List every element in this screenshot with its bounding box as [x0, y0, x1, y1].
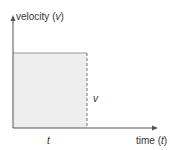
x-axis-arrow-icon — [152, 126, 158, 131]
x-axis-label-text: time — [136, 135, 155, 146]
y-axis-variable: v — [55, 11, 60, 22]
x-axis-variable: t — [161, 135, 164, 146]
y-axis-label: velocity (v) — [16, 12, 64, 22]
x-axis-label: time (t) — [136, 136, 167, 146]
area-width-label: t — [47, 136, 50, 146]
area-height-label: v — [93, 94, 98, 104]
area-rectangle — [13, 53, 87, 128]
y-axis-arrow-icon — [11, 15, 16, 21]
y-axis-label-text: velocity — [16, 11, 49, 22]
velocity-time-graph — [0, 0, 170, 150]
